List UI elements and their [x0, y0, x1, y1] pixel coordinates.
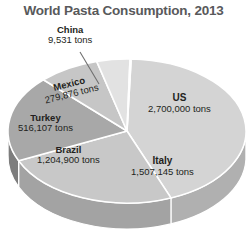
slice-label-us-value: 2,700,000 tons [148, 104, 211, 114]
slice-label-italy: Italy 1,507,145 tons [131, 156, 194, 177]
slice-label-brazil: Brazil 1,204,900 tons [37, 145, 100, 166]
slice-label-us: US 2,700,000 tons [148, 93, 211, 114]
slice-label-china-value: 9,531 tons [48, 35, 92, 45]
slice-label-turkey-value: 516,107 tons [18, 123, 73, 133]
slice-label-italy-value: 1,507,145 tons [131, 167, 194, 177]
slice-label-turkey: Turkey 516,107 tons [18, 113, 73, 134]
slice-label-brazil-value: 1,204,900 tons [37, 155, 100, 165]
slice-label-china: China 9,531 tons [48, 25, 92, 46]
pie-chart-figure: World Pasta Consumption, 2013 China 9,53… [0, 0, 247, 236]
